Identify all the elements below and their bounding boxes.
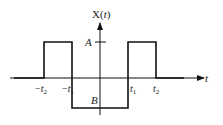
tick-neg-t2: −t2 [35,83,47,96]
tick-t1: t1 [130,83,137,96]
signal-diagram: X(t) t A B −t2 −t1 t1 t2 [0,0,223,125]
x-axis-label: t [205,72,209,84]
y-axis-label: X(t) [92,8,111,21]
level-b-label: B [91,94,98,106]
signal-waveform [14,42,184,108]
tick-t2: t2 [153,83,160,96]
level-a-label: A [84,36,92,48]
